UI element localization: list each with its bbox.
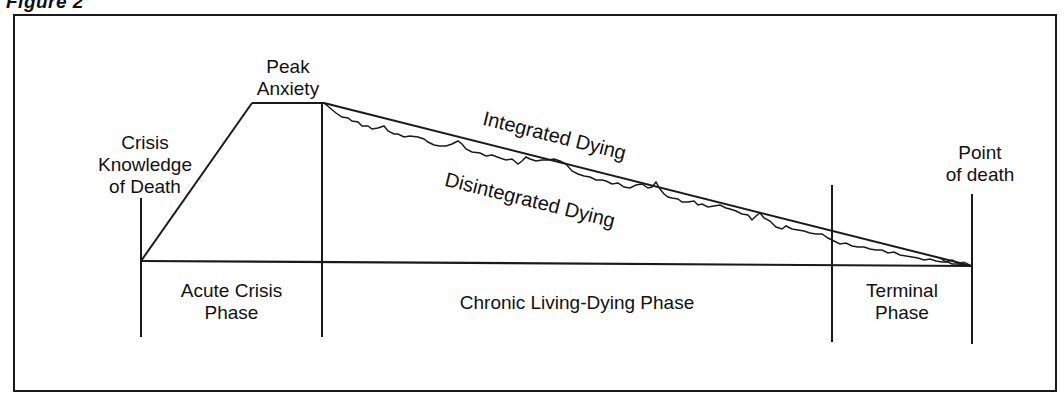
phase-terminal-line1: Terminal <box>832 280 972 302</box>
phase-acute-line1: Acute Crisis <box>141 280 322 302</box>
baseline <box>141 261 972 266</box>
peak-label-line1: Peak <box>228 56 348 78</box>
death-label-line2: of death <box>920 164 1040 186</box>
crisis-label-line3: of Death <box>80 176 210 198</box>
phase-acute-line2: Phase <box>141 302 322 324</box>
phase-chronic-living-dying: Chronic Living-Dying Phase <box>322 292 832 314</box>
peak-label-line2: Anxiety <box>228 78 348 100</box>
integrated-dying-line <box>324 103 972 266</box>
death-label-line1: Point <box>920 142 1040 164</box>
crisis-label-line1: Crisis <box>80 132 210 154</box>
point-of-death-label: Point of death <box>920 142 1040 186</box>
peak-anxiety-label: Peak Anxiety <box>228 56 348 100</box>
phase-chronic-line1: Chronic Living-Dying Phase <box>322 292 832 314</box>
crisis-knowledge-label: Crisis Knowledge of Death <box>80 132 210 198</box>
phase-terminal: Terminal Phase <box>832 280 972 324</box>
phase-terminal-line2: Phase <box>832 302 972 324</box>
crisis-label-line2: Knowledge <box>80 154 210 176</box>
phase-acute-crisis: Acute Crisis Phase <box>141 280 322 324</box>
